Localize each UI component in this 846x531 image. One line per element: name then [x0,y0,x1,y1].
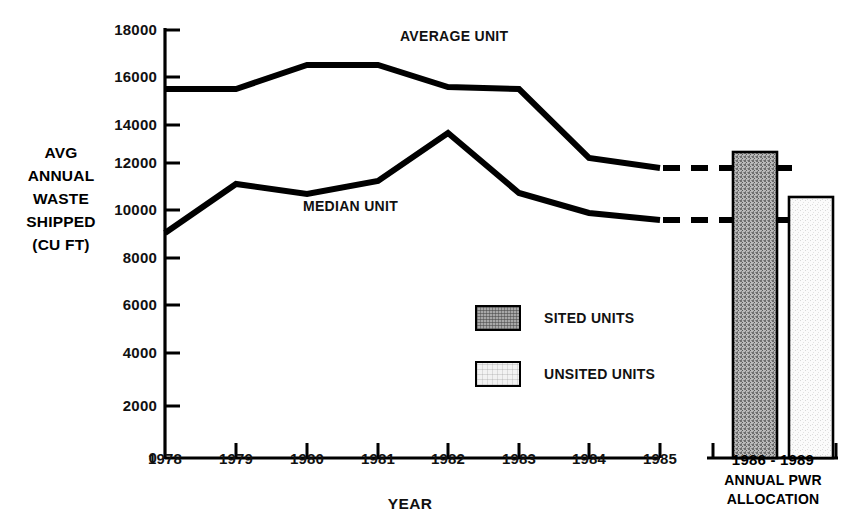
y-tick-label-4000: 4000 [62,345,157,360]
y-axis-title: AVG ANNUAL WASTE SHIPPED (CU FT) [2,144,120,254]
x-tick-label-1982: 1982 [413,451,483,466]
x-tick-label-1985: 1985 [625,451,695,466]
x-tick-label-1983: 1983 [484,451,554,466]
bar-panel-labels: 1986 - 1989 ANNUAL PWR ALLOCATION [700,451,846,507]
legend-label-sited-units: SITED UNITS [544,311,634,325]
y-axis-title-line-2: ANNUAL [2,167,120,185]
bar-panel-range-label: 1986 - 1989 [700,451,846,468]
x-tick-label-1981: 1981 [343,451,413,466]
y-tick-label-18000: 18000 [62,22,157,37]
x-tick-label-1978: 1978 [130,451,200,466]
series-line-median-unit [165,133,660,233]
x-tick-label-1979: 1979 [201,451,271,466]
x-tick-label-1984: 1984 [554,451,624,466]
legend-swatch-sited-units [475,305,521,331]
y-axis-title-line-4: SHIPPED [2,213,120,231]
y-axis-title-line-1: AVG [2,144,120,162]
y-tick-label-14000: 14000 [62,117,157,132]
y-tick-label-2000: 2000 [62,398,157,413]
legend-label-unsited-units: UNSITED UNITS [544,367,655,381]
x-tick-label-1980: 1980 [272,451,342,466]
series-line-average-unit [165,65,660,168]
y-axis-title-line-3: WASTE [2,190,120,208]
bar-panel-sublabel-2: ALLOCATION [700,491,846,507]
y-axis-title-line-5: (CU FT) [2,236,120,254]
chart-figure: 18000 16000 14000 12000 10000 8000 6000 … [0,0,846,531]
y-tick-label-6000: 6000 [62,297,157,312]
legend-swatch-unsited-units [475,361,521,387]
bar-panel-sublabel-1: ANNUAL PWR [700,472,846,488]
x-axis-title: YEAR [330,496,490,512]
bar-unsited-units [789,197,833,458]
y-tick-label-16000: 16000 [62,69,157,84]
series-annotation-average-unit: AVERAGE UNIT [400,29,508,43]
series-annotation-median-unit: MEDIAN UNIT [303,199,398,213]
bar-sited-units [733,152,777,458]
